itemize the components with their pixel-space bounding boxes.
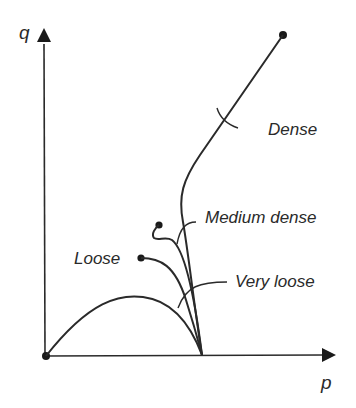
curve-loose xyxy=(141,258,202,355)
stress-path-diagram: q p Dense Medium dense Loose Very loose xyxy=(0,0,356,408)
label-dense: Dense xyxy=(268,120,317,140)
curve-medium-dense xyxy=(153,225,202,355)
y-axis xyxy=(44,44,45,356)
x-axis-arrow-icon xyxy=(322,348,336,362)
y-axis-arrow-icon xyxy=(37,28,51,42)
x-axis xyxy=(45,355,322,356)
label-very-loose: Very loose xyxy=(235,272,315,292)
label-medium-dense: Medium dense xyxy=(205,208,317,228)
curve-dense xyxy=(181,35,283,355)
label-loose: Loose xyxy=(74,249,120,269)
y-axis-label: q xyxy=(19,22,30,44)
x-axis-label: p xyxy=(321,372,332,394)
diagram-graphics xyxy=(0,0,356,408)
very-loose-leader-line xyxy=(178,282,227,308)
